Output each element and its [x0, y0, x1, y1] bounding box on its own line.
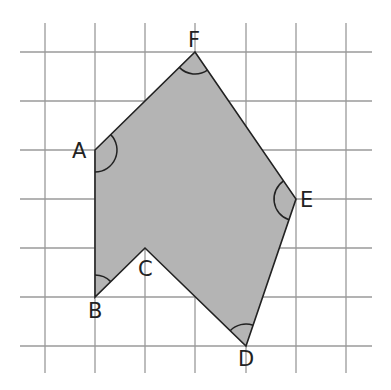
diagram-canvas: A B C D E F — [0, 0, 391, 390]
vertex-label-e: E — [300, 188, 313, 212]
vertex-label-f: F — [188, 28, 200, 52]
vertex-label-a: A — [72, 139, 87, 163]
vertex-label-c: C — [138, 257, 153, 281]
vertex-label-b: B — [88, 299, 102, 323]
polygon-grid-diagram: A B C D E F — [0, 0, 391, 390]
vertex-label-d: D — [238, 347, 254, 371]
